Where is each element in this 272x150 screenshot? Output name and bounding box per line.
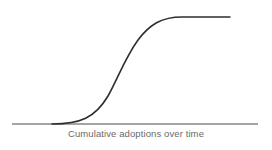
chart-caption: Cumulative adoptions over time	[0, 128, 272, 139]
adoption-curve	[52, 17, 230, 124]
